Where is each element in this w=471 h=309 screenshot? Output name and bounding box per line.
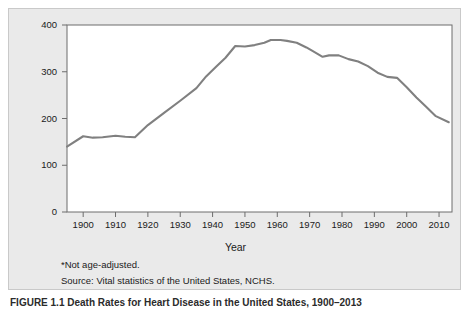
figure-panel: Deaths per 100,000 Population Year *Not … <box>8 8 461 290</box>
x-axis-label: Year <box>9 241 462 253</box>
y-tick-label: 200 <box>27 113 57 124</box>
x-tick-label: 2010 <box>419 219 459 230</box>
footnote-source: Source: Vital statistics of the United S… <box>61 275 275 286</box>
footnote-not-age-adjusted: *Not age-adjusted. <box>61 259 140 270</box>
figure-container: Deaths per 100,000 Population Year *Not … <box>0 0 471 309</box>
y-axis-label: Deaths per 100,000 Population <box>93 39 105 187</box>
y-tick-label: 400 <box>27 19 57 30</box>
y-axis-label-wrapper: Deaths per 100,000 Population <box>89 23 105 203</box>
y-tick-label: 0 <box>27 206 57 217</box>
figure-caption: FIGURE 1.1 Death Rates for Heart Disease… <box>10 297 465 308</box>
y-tick-label: 300 <box>27 66 57 77</box>
y-tick-label: 100 <box>27 159 57 170</box>
